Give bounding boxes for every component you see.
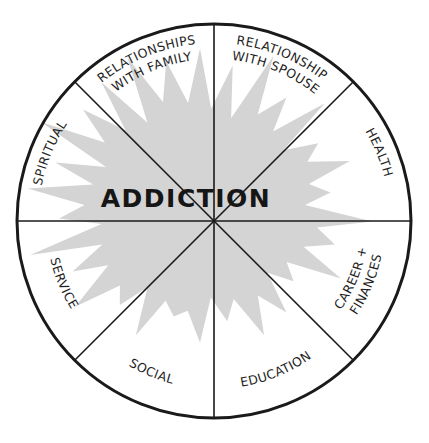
- segment-label-career-finances: CAREER +FINANCES: [331, 245, 385, 317]
- segment-label-service: SERVICE: [47, 256, 81, 312]
- segment-label-line: EDUCATION: [239, 348, 314, 390]
- life-wheel-diagram: RELATIONSHIPSWITH FAMILYRELATIONSHIPWITH…: [0, 0, 429, 443]
- segment-label-relationship-with-spouse: RELATIONSHIPWITH SPOUSE: [231, 32, 330, 97]
- segment-label-line: SERVICE: [47, 256, 81, 312]
- center-label-addiction: ADDICTION: [101, 184, 272, 213]
- segment-label-education: EDUCATION: [239, 348, 314, 390]
- segment-dividers: [17, 24, 411, 418]
- segment-label-social: SOCIAL: [127, 355, 176, 387]
- segment-label-line: SOCIAL: [127, 355, 176, 387]
